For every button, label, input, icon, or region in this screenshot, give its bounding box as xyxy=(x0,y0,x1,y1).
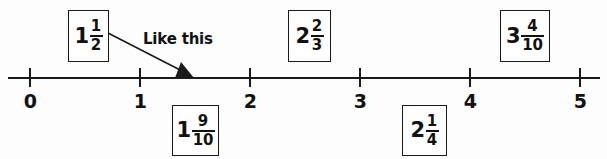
whole-part: 1 xyxy=(177,120,192,141)
mixed-number: 2 2 3 xyxy=(295,19,323,53)
number-line-worksheet: 0 1 2 3 4 5 Like this 1 1 2 1 9 10 xyxy=(0,0,607,159)
numerator: 9 xyxy=(197,114,209,130)
denominator: 2 xyxy=(90,37,102,53)
numerator: 1 xyxy=(426,114,438,130)
fraction-part: 9 10 xyxy=(192,114,215,148)
tick-label-0: 0 xyxy=(18,91,42,111)
value-box-2-1-4[interactable]: 2 1 4 xyxy=(402,105,447,156)
tick-mark-5 xyxy=(579,68,581,87)
denominator: 10 xyxy=(192,132,215,148)
denominator: 10 xyxy=(521,37,544,53)
whole-part: 2 xyxy=(295,26,310,47)
tick-label-4: 4 xyxy=(458,91,482,111)
tick-mark-0 xyxy=(29,68,31,87)
numerator: 1 xyxy=(90,19,102,35)
tick-label-5: 5 xyxy=(568,91,592,111)
mixed-number: 3 4 10 xyxy=(506,19,544,53)
tick-mark-3 xyxy=(359,68,361,87)
value-box-3-4-10[interactable]: 3 4 10 xyxy=(500,10,550,62)
whole-part: 1 xyxy=(74,26,89,47)
number-line-axis xyxy=(8,77,600,79)
tick-label-3: 3 xyxy=(348,91,372,111)
tick-mark-1 xyxy=(139,68,141,87)
denominator: 4 xyxy=(426,132,438,148)
like-this-label: Like this xyxy=(143,30,213,48)
value-box-1-9-10[interactable]: 1 9 10 xyxy=(172,105,219,156)
mixed-number: 1 1 2 xyxy=(74,19,102,53)
tick-mark-4 xyxy=(469,68,471,87)
whole-part: 2 xyxy=(410,120,425,141)
fraction-part: 1 2 xyxy=(90,19,103,53)
fraction-part: 2 3 xyxy=(311,19,324,53)
denominator: 3 xyxy=(311,37,323,53)
mixed-number: 1 9 10 xyxy=(177,114,215,148)
fraction-part: 4 10 xyxy=(521,19,544,53)
mixed-number: 2 1 4 xyxy=(410,114,438,148)
value-box-2-2-3[interactable]: 2 2 3 xyxy=(288,10,331,62)
fraction-part: 1 4 xyxy=(426,114,439,148)
tick-mark-2 xyxy=(249,68,251,87)
numerator: 4 xyxy=(526,19,538,35)
whole-part: 3 xyxy=(506,26,521,47)
tick-label-2: 2 xyxy=(238,91,262,111)
tick-label-1: 1 xyxy=(128,91,152,111)
numerator: 2 xyxy=(311,19,323,35)
value-box-1-1-2[interactable]: 1 1 2 xyxy=(68,10,109,62)
